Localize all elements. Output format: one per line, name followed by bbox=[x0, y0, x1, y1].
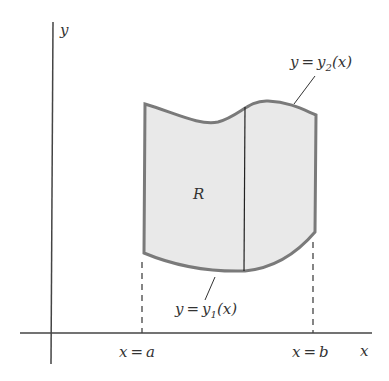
region-diagram: y x R y=y2(x) y=y1(x) x=a x=b bbox=[0, 0, 389, 381]
lower-curve-leader bbox=[205, 277, 215, 300]
x-axis-label: x bbox=[360, 342, 369, 360]
left-bound-label: x=a bbox=[119, 343, 155, 361]
upper-curve-label: y=y2(x) bbox=[289, 53, 352, 73]
y-axis bbox=[51, 22, 53, 364]
region-r bbox=[144, 101, 316, 271]
right-bound-label: x=b bbox=[292, 343, 329, 361]
upper-curve-leader bbox=[294, 76, 315, 104]
y-axis-label: y bbox=[59, 21, 69, 39]
region-label: R bbox=[192, 185, 204, 203]
lower-curve-label: y=y1(x) bbox=[174, 300, 237, 320]
